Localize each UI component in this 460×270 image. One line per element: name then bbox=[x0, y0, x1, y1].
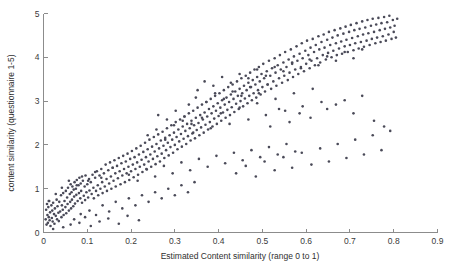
data-point bbox=[266, 83, 269, 86]
data-point bbox=[114, 172, 117, 175]
data-point bbox=[216, 123, 219, 126]
data-point bbox=[223, 103, 226, 106]
data-point bbox=[181, 125, 184, 128]
data-point bbox=[137, 173, 140, 176]
data-point bbox=[285, 143, 288, 146]
data-point bbox=[125, 160, 128, 163]
data-point bbox=[256, 76, 259, 79]
data-point bbox=[336, 34, 339, 37]
data-point bbox=[160, 152, 163, 155]
data-point bbox=[245, 89, 248, 92]
data-point bbox=[164, 138, 167, 141]
data-point bbox=[112, 180, 115, 183]
data-point bbox=[377, 17, 380, 20]
data-point bbox=[101, 204, 104, 207]
data-point bbox=[139, 144, 142, 147]
data-point bbox=[79, 182, 82, 185]
data-point bbox=[286, 79, 289, 82]
data-point bbox=[282, 156, 285, 159]
data-point bbox=[64, 206, 67, 209]
data-point bbox=[252, 92, 255, 95]
data-point bbox=[85, 191, 88, 194]
data-point bbox=[367, 32, 370, 35]
data-point bbox=[374, 42, 377, 45]
data-point bbox=[207, 128, 210, 131]
plot-axes bbox=[44, 14, 438, 233]
data-point bbox=[132, 176, 135, 179]
data-point bbox=[187, 191, 190, 194]
data-point bbox=[234, 90, 237, 93]
data-point bbox=[308, 67, 311, 70]
data-point bbox=[100, 168, 103, 171]
data-point bbox=[279, 68, 282, 71]
data-point bbox=[81, 201, 84, 204]
data-point bbox=[329, 44, 332, 47]
data-point bbox=[279, 54, 282, 57]
data-point bbox=[202, 131, 205, 134]
data-point bbox=[120, 162, 123, 165]
data-point bbox=[52, 201, 55, 204]
data-point bbox=[268, 146, 271, 149]
data-point bbox=[62, 192, 65, 195]
data-point bbox=[145, 156, 148, 159]
data-point bbox=[174, 194, 177, 197]
data-point bbox=[71, 185, 74, 188]
data-point bbox=[128, 197, 131, 200]
data-point bbox=[96, 184, 99, 187]
data-point bbox=[380, 149, 383, 152]
data-point bbox=[238, 88, 241, 91]
data-point bbox=[48, 219, 51, 222]
data-point bbox=[93, 197, 96, 200]
data-point bbox=[247, 81, 250, 84]
data-point bbox=[256, 102, 259, 105]
data-point bbox=[132, 163, 135, 166]
data-point bbox=[384, 28, 387, 31]
data-point bbox=[52, 228, 55, 231]
data-point bbox=[140, 158, 143, 161]
y-tick-label: 2 bbox=[35, 140, 40, 150]
data-point bbox=[188, 127, 191, 130]
data-point bbox=[46, 214, 49, 217]
data-point bbox=[87, 180, 90, 183]
data-point bbox=[230, 106, 233, 109]
data-point bbox=[167, 187, 170, 190]
data-point bbox=[309, 46, 312, 49]
data-point bbox=[361, 20, 364, 23]
data-point bbox=[306, 39, 309, 42]
data-point bbox=[62, 226, 65, 229]
data-point bbox=[300, 151, 303, 154]
data-point bbox=[224, 162, 227, 165]
data-point bbox=[195, 116, 198, 119]
data-point bbox=[241, 159, 244, 162]
data-point bbox=[126, 215, 129, 218]
data-point bbox=[75, 179, 78, 182]
data-point bbox=[357, 35, 360, 38]
data-point bbox=[157, 114, 160, 117]
data-point bbox=[344, 25, 347, 28]
data-point bbox=[153, 136, 156, 139]
data-point bbox=[379, 41, 382, 44]
data-point bbox=[116, 165, 119, 168]
data-point bbox=[127, 166, 130, 169]
data-point bbox=[396, 17, 399, 20]
y-tick-label: 1 bbox=[35, 184, 40, 194]
data-point bbox=[292, 76, 295, 79]
data-point bbox=[255, 96, 258, 99]
data-point bbox=[386, 21, 389, 24]
data-point bbox=[232, 98, 235, 101]
data-point bbox=[170, 124, 173, 127]
data-point bbox=[278, 108, 281, 111]
data-point bbox=[78, 222, 81, 225]
data-point bbox=[313, 51, 316, 54]
data-point bbox=[247, 118, 250, 121]
data-point bbox=[371, 17, 374, 20]
data-point bbox=[81, 175, 84, 178]
data-point bbox=[61, 204, 64, 207]
data-point bbox=[296, 60, 299, 63]
data-point bbox=[128, 173, 131, 176]
data-point bbox=[303, 70, 306, 73]
data-point bbox=[229, 114, 232, 117]
x-tick-label: 0.2 bbox=[125, 236, 137, 246]
data-point bbox=[180, 184, 183, 187]
data-point bbox=[124, 181, 127, 184]
